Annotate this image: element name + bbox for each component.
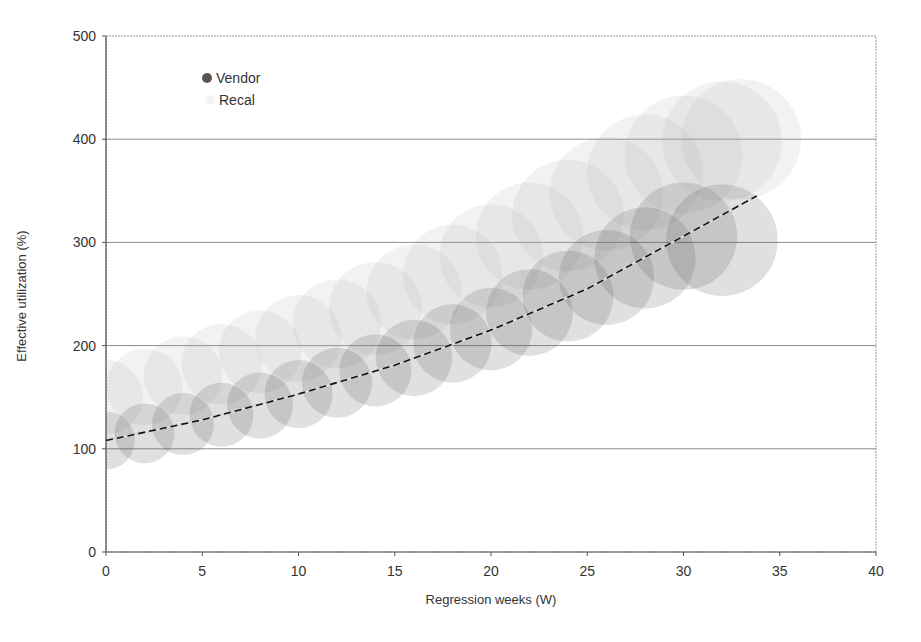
y-tick-label: 200 bbox=[73, 338, 97, 354]
x-tick-label: 30 bbox=[676, 563, 692, 579]
legend-vendor-label: Vendor bbox=[216, 70, 261, 86]
y-tick-label: 100 bbox=[73, 441, 97, 457]
y-tick-label: 300 bbox=[73, 234, 97, 250]
bubble-chart: 0510152025303540 0100200300400500 Regres… bbox=[0, 0, 921, 642]
y-axis-ticks: 0100200300400500 bbox=[73, 28, 106, 560]
y-axis-title: Effective utilization (%) bbox=[14, 230, 29, 361]
y-tick-label: 400 bbox=[73, 131, 97, 147]
y-tick-label: 0 bbox=[88, 544, 96, 560]
legend-vendor-marker-icon bbox=[202, 73, 212, 83]
legend-recal-marker-icon bbox=[205, 95, 215, 105]
bubble bbox=[681, 79, 801, 199]
x-tick-label: 40 bbox=[868, 563, 884, 579]
bubble bbox=[666, 185, 777, 296]
x-tick-label: 20 bbox=[483, 563, 499, 579]
x-tick-label: 15 bbox=[387, 563, 403, 579]
x-tick-label: 35 bbox=[772, 563, 788, 579]
x-tick-label: 0 bbox=[102, 563, 110, 579]
legend-recal-label: Recal bbox=[219, 92, 255, 108]
x-axis-title: Regression weeks (W) bbox=[426, 592, 557, 607]
x-tick-label: 10 bbox=[291, 563, 307, 579]
x-tick-label: 5 bbox=[198, 563, 206, 579]
x-axis-ticks: 0510152025303540 bbox=[102, 552, 884, 579]
y-tick-label: 500 bbox=[73, 28, 97, 44]
x-tick-label: 25 bbox=[579, 563, 595, 579]
